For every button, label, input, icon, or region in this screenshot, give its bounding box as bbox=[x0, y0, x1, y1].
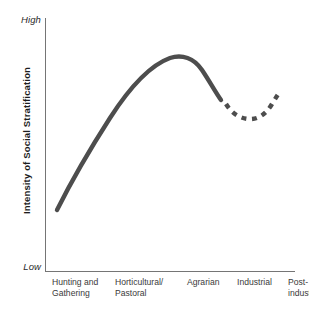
x-axis-labels: Hunting and Gathering Horticultural/ Pas… bbox=[45, 277, 297, 307]
stratification-curve-dashed-projection bbox=[226, 93, 279, 119]
x-axis-label-post-industrial: Post- industrial bbox=[288, 277, 309, 298]
social-stratification-chart: High Low Intensity of Social Stratificat… bbox=[0, 0, 309, 310]
y-axis-low-label: Low bbox=[0, 261, 41, 272]
plot-area bbox=[0, 0, 309, 310]
y-axis-title: Intensity of Social Stratification bbox=[21, 41, 32, 241]
x-axis-label-horticultural-pastoral: Horticultural/ Pastoral bbox=[115, 277, 187, 298]
y-axis-high-label: High bbox=[0, 14, 41, 25]
x-axis-label-hunting-and-gathering: Hunting and Gathering bbox=[52, 277, 118, 298]
x-axis-line bbox=[45, 271, 295, 272]
x-axis-label-industrial: Industrial bbox=[237, 277, 289, 288]
y-axis-line bbox=[45, 18, 46, 272]
stratification-curve-solid bbox=[57, 57, 221, 211]
x-axis-label-agrarian: Agrarian bbox=[187, 277, 239, 288]
